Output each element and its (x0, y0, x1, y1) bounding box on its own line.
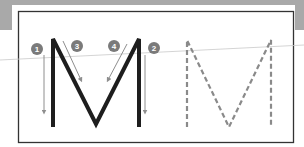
svg-text:3: 3 (75, 42, 80, 51)
frame-border (19, 12, 294, 143)
badge-2: 2 (148, 42, 160, 54)
svg-text:4: 4 (112, 42, 117, 51)
svg-text:1: 1 (35, 45, 40, 54)
svg-text:2: 2 (152, 44, 157, 53)
badge-4: 4 (108, 40, 120, 52)
badge-1: 1 (31, 43, 43, 55)
letter-m-diagram: 1 2 3 4 (0, 0, 304, 147)
badge-3: 3 (71, 40, 83, 52)
